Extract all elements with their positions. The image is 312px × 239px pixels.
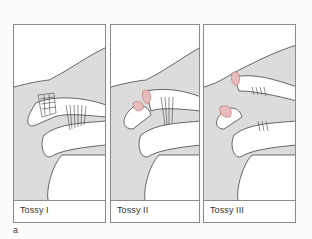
panel-tossy-1: Tossy I: [13, 24, 106, 223]
label-box: Tossy I: [14, 200, 105, 222]
shoulder-illustration-grade-1: [14, 25, 106, 223]
panel-label: Tossy I: [20, 205, 49, 215]
panel-tossy-2: Tossy II: [110, 24, 200, 223]
label-box: Tossy II: [111, 200, 199, 222]
label-box: Tossy III: [204, 200, 295, 222]
shoulder-illustration-grade-3: [204, 25, 296, 223]
panel-label: Tossy II: [117, 205, 148, 215]
shoulder-illustration-grade-2: [111, 25, 200, 223]
figure-panel-letter: a: [13, 225, 18, 235]
panel-label: Tossy III: [210, 205, 244, 215]
panel-tossy-3: Tossy III: [203, 24, 296, 223]
